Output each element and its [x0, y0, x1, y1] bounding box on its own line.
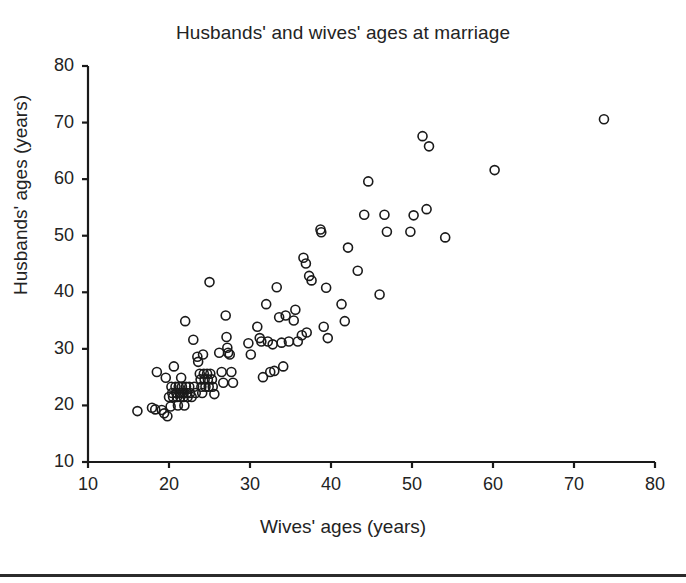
- data-point: [364, 177, 373, 186]
- plot-area: [0, 0, 686, 583]
- scatter-plot-figure: Husbands' and wives' ages at marriage Hu…: [0, 0, 686, 583]
- data-point: [228, 378, 237, 387]
- data-point: [323, 334, 332, 343]
- data-point: [205, 278, 214, 287]
- y-tick-label: 40: [28, 281, 74, 302]
- data-point: [375, 290, 384, 299]
- data-point: [425, 142, 434, 151]
- data-point: [382, 227, 391, 236]
- data-point: [340, 317, 349, 326]
- data-point: [217, 368, 226, 377]
- x-tick-label: 10: [65, 474, 111, 495]
- y-tick-label: 20: [28, 394, 74, 415]
- data-point: [161, 373, 170, 382]
- data-point: [272, 283, 281, 292]
- data-point: [319, 322, 328, 331]
- data-point: [133, 407, 142, 416]
- y-tick-label: 80: [28, 55, 74, 76]
- x-axis-label: Wives' ages (years): [0, 516, 686, 538]
- x-tick-label: 80: [632, 474, 678, 495]
- data-point: [246, 350, 255, 359]
- data-point: [344, 243, 353, 252]
- data-point: [227, 368, 236, 377]
- data-point: [353, 266, 362, 275]
- data-point: [409, 211, 418, 220]
- data-point: [441, 233, 450, 242]
- data-point: [422, 205, 431, 214]
- data-point: [279, 362, 288, 371]
- data-point: [301, 259, 310, 268]
- data-point: [289, 316, 298, 325]
- data-point-group: [133, 115, 609, 421]
- x-tick-label: 20: [146, 474, 192, 495]
- x-tick-label: 60: [470, 474, 516, 495]
- data-point: [189, 335, 198, 344]
- page-bottom-rule: [0, 574, 686, 577]
- x-tick-label: 40: [308, 474, 354, 495]
- data-point: [360, 210, 369, 219]
- data-point: [599, 115, 608, 124]
- data-point: [490, 166, 499, 175]
- data-point: [337, 300, 346, 309]
- data-point: [169, 362, 178, 371]
- data-point: [177, 373, 186, 382]
- data-point: [181, 317, 190, 326]
- data-point: [199, 350, 208, 359]
- data-point: [152, 368, 161, 377]
- y-tick-label: 30: [28, 338, 74, 359]
- data-point: [418, 132, 427, 141]
- x-tick-label: 70: [551, 474, 597, 495]
- data-point: [322, 283, 331, 292]
- data-point: [221, 311, 230, 320]
- data-point: [180, 401, 189, 410]
- x-axis-label-text: Wives' ages (years): [260, 516, 426, 537]
- y-tick-label: 50: [28, 225, 74, 246]
- x-tick-label: 30: [227, 474, 273, 495]
- data-point: [380, 210, 389, 219]
- y-tick-label: 60: [28, 168, 74, 189]
- data-point: [262, 300, 271, 309]
- y-tick-label: 70: [28, 112, 74, 133]
- data-point: [406, 227, 415, 236]
- data-point: [215, 348, 224, 357]
- y-tick-label: 10: [28, 451, 74, 472]
- data-point: [299, 253, 308, 262]
- data-point: [291, 305, 300, 314]
- data-point: [244, 339, 253, 348]
- data-point: [222, 332, 231, 341]
- x-tick-label: 50: [389, 474, 435, 495]
- data-point: [219, 378, 228, 387]
- data-point: [253, 322, 262, 331]
